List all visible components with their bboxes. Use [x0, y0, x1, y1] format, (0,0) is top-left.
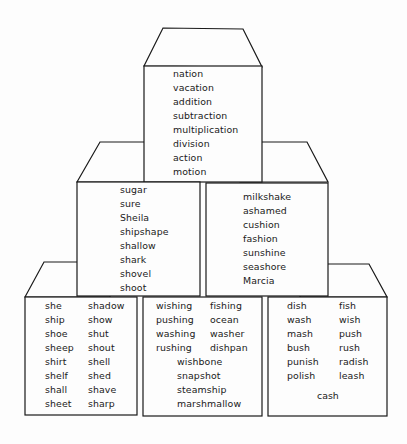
word: wishbone — [177, 355, 241, 369]
bottom-right-column-2: fish wish push rush radish leash — [339, 299, 369, 383]
word: sheet — [45, 397, 74, 411]
word: motion — [173, 165, 238, 179]
word: shallow — [120, 239, 169, 253]
bottom-middle-column-1: wishing pushing washing rushing — [156, 299, 195, 355]
bottom-middle-centered-words: wishbone snapshot steamship marshmallow — [177, 355, 241, 411]
word: wishing — [156, 299, 195, 313]
word: sugar — [120, 183, 169, 197]
word: sure — [120, 197, 169, 211]
word: addition — [173, 95, 238, 109]
word: radish — [339, 355, 369, 369]
bottom-left-column-1: she ship shoe sheep shirt shelf shall sh… — [45, 299, 74, 411]
word: snapshot — [177, 369, 241, 383]
word: bush — [287, 341, 319, 355]
word: Marcia — [243, 274, 291, 288]
word: shirt — [45, 355, 74, 369]
word: shadow — [88, 299, 125, 313]
word: washer — [210, 327, 248, 341]
word: shovel — [120, 267, 169, 281]
word: shipshape — [120, 225, 169, 239]
word: marshmallow — [177, 397, 241, 411]
word: polish — [287, 369, 319, 383]
word: shoot — [120, 281, 169, 295]
word: seashore — [243, 260, 291, 274]
word: pushing — [156, 313, 195, 327]
word: shell — [88, 355, 125, 369]
middle-left-block-words: sugar sure Sheila shipshape shallow shar… — [120, 183, 169, 295]
word: fashion — [243, 232, 291, 246]
word: cushion — [243, 218, 291, 232]
word: push — [339, 327, 369, 341]
word: multiplication — [173, 123, 238, 137]
word: ashamed — [243, 204, 291, 218]
word: washing — [156, 327, 195, 341]
top-roof — [144, 28, 262, 67]
word: sunshine — [243, 246, 291, 260]
word: punish — [287, 355, 319, 369]
word: vacation — [173, 81, 238, 95]
word: Sheila — [120, 211, 169, 225]
word: rush — [339, 341, 369, 355]
word: leash — [339, 369, 369, 383]
word: shark — [120, 253, 169, 267]
word: shoe — [45, 327, 74, 341]
word: ship — [45, 313, 74, 327]
word: milkshake — [243, 190, 291, 204]
word: wish — [339, 313, 369, 327]
word: action — [173, 151, 238, 165]
word: sharp — [88, 397, 125, 411]
word: rushing — [156, 341, 195, 355]
word: subtraction — [173, 109, 238, 123]
word: ocean — [210, 313, 248, 327]
word: she — [45, 299, 74, 313]
word: shed — [88, 369, 125, 383]
word: dish — [287, 299, 319, 313]
word: show — [88, 313, 125, 327]
word: wash — [287, 313, 319, 327]
word: sheep — [45, 341, 74, 355]
middle-right-block-words: milkshake ashamed cushion fashion sunshi… — [243, 190, 291, 288]
word-blocks-diagram: nation vacation addition subtraction mul… — [0, 0, 407, 444]
bottom-right-column-1: dish wash mash bush punish polish — [287, 299, 319, 383]
word: division — [173, 137, 238, 151]
word: shut — [88, 327, 125, 341]
bottom-right-centered-word: cash — [317, 390, 339, 401]
word: nation — [173, 67, 238, 81]
word: shelf — [45, 369, 74, 383]
word: fishing — [210, 299, 248, 313]
word: shave — [88, 383, 125, 397]
bottom-middle-column-2: fishing ocean washer dishpan — [210, 299, 248, 355]
word: shall — [45, 383, 74, 397]
bottom-left-column-2: shadow show shut shout shell shed shave … — [88, 299, 125, 411]
word: dishpan — [210, 341, 248, 355]
top-block-words: nation vacation addition subtraction mul… — [173, 67, 238, 179]
word: mash — [287, 327, 319, 341]
word: fish — [339, 299, 369, 313]
word: steamship — [177, 383, 241, 397]
word: shout — [88, 341, 125, 355]
